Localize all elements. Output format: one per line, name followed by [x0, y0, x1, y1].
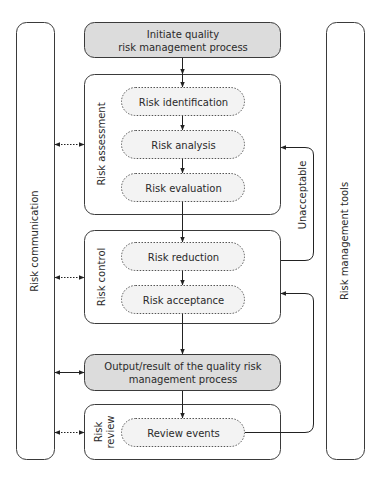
unacceptable-label: Unacceptable [297, 161, 309, 230]
risk-reduction-label: Risk reduction [122, 243, 245, 271]
risk-evaluation-label: Risk evaluation [122, 174, 245, 202]
initiate-process-text: Initiate quality risk management process [85, 23, 281, 58]
risk-control-label: Risk control [96, 248, 108, 307]
risk-identification-label: Risk identification [122, 88, 245, 116]
risk-assessment-label: Risk assessment [96, 102, 108, 185]
risk-acceptance-label: Risk acceptance [122, 286, 245, 314]
output-text: Output/result of the quality risk manage… [85, 355, 281, 391]
initiate-line2: risk management process [118, 41, 248, 54]
risk-review-line2: review [105, 415, 117, 448]
diagram-canvas [0, 0, 382, 477]
initiate-line1: Initiate quality [147, 28, 219, 41]
output-line2: management process [129, 373, 238, 386]
risk-management-tools-label: Risk management tools [339, 182, 351, 300]
risk-review-line1: Risk [93, 415, 105, 448]
risk-review-label: Risk review [93, 415, 117, 448]
risk-analysis-label: Risk analysis [122, 131, 245, 159]
risk-communication-label: Risk communication [29, 190, 41, 291]
review-events-label: Review events [122, 419, 245, 447]
output-line1: Output/result of the quality risk [104, 360, 261, 373]
communication-arrows [55, 145, 84, 433]
